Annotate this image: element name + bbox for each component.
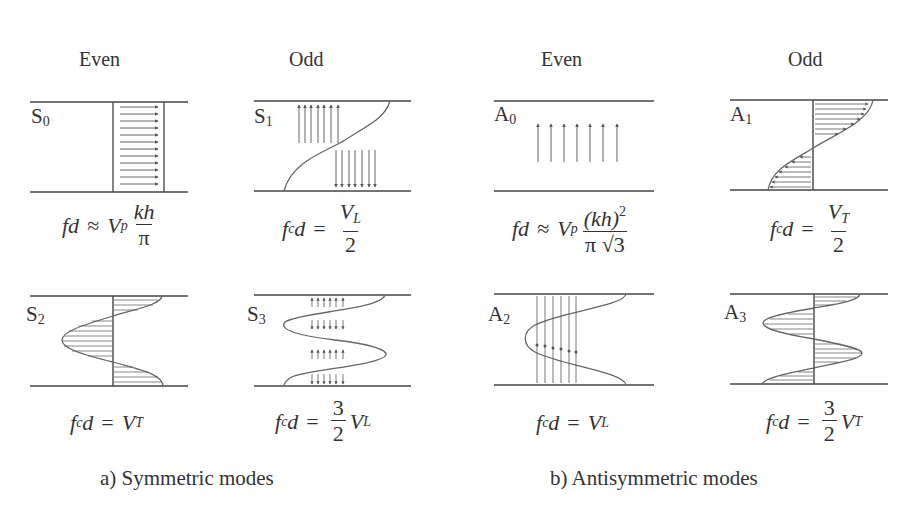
mode-label-A1: A1	[730, 102, 752, 128]
plate-A3	[730, 294, 888, 384]
formula-A3: fcd = 32 VT	[766, 396, 862, 447]
formula-S1: fcd = VL2	[282, 200, 367, 258]
plate-S3	[254, 295, 411, 386]
plate-A1	[730, 100, 888, 190]
caption-symmetric-modes: a) Symmetric modes	[100, 466, 274, 491]
A3-profile	[762, 294, 862, 384]
S0-profile	[113, 102, 164, 192]
plate-S1	[254, 101, 411, 191]
A1-profile	[768, 100, 873, 190]
mode-label-S2: S2	[26, 302, 45, 328]
formula-A2: fcd = VL	[536, 410, 609, 436]
S3-profile	[284, 295, 386, 386]
plate-A2	[494, 294, 654, 385]
A0-profile	[538, 124, 617, 162]
formula-S3: fcd = 32 VL	[275, 396, 371, 447]
formula-S2: fcd = VT	[70, 410, 143, 436]
mode-label-S0: S0	[31, 104, 50, 130]
mode-label-A0: A0	[494, 102, 516, 128]
mode-label-S1: S1	[254, 104, 273, 130]
S1-profile	[284, 101, 390, 191]
formula-S0: fd ≈ Vp khπ	[62, 200, 160, 251]
S2-profile	[62, 296, 163, 386]
formula-A0: fd ≈ Vp (kh)2π √3	[512, 200, 632, 258]
plate-A0	[494, 101, 654, 191]
A2-profile	[525, 294, 626, 385]
caption-antisymmetric-modes: b) Antisymmetric modes	[550, 466, 758, 491]
formula-A1: fcd = VT2	[770, 200, 855, 258]
mode-label-A3: A3	[724, 300, 746, 326]
mode-label-A2: A2	[488, 302, 510, 328]
mode-label-S3: S3	[247, 302, 266, 328]
